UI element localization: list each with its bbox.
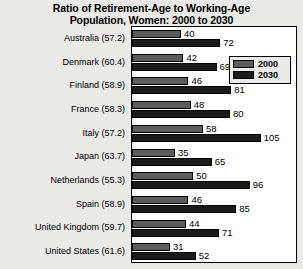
bar-2000 xyxy=(132,54,183,62)
chart-title-line-2: Population, Women: 2000 to 2030 xyxy=(0,14,303,26)
category-label: Finland (58.9) xyxy=(0,80,125,90)
bar-value-label-2030: 105 xyxy=(264,133,280,142)
bar-2030 xyxy=(132,134,261,142)
bar-value-label-2030: 81 xyxy=(234,85,245,94)
bar-2030 xyxy=(132,229,219,237)
bar-value-label-2030: 72 xyxy=(223,38,234,47)
bar-2000 xyxy=(132,243,170,251)
bar-value-label-2030: 52 xyxy=(199,251,210,260)
bar-2000 xyxy=(132,77,188,85)
bar-value-label-2000: 50 xyxy=(196,171,207,180)
bar-value-label-2000: 42 xyxy=(186,53,197,62)
legend-swatch-2000 xyxy=(233,60,254,68)
bar-2030 xyxy=(132,181,250,189)
category-label: Denmark (60.4) xyxy=(0,57,125,67)
bar-2000 xyxy=(132,101,191,109)
category-label: Spain (58.9) xyxy=(0,199,125,209)
bar-value-label-2000: 40 xyxy=(184,29,195,38)
category-label: Netherlands (55.3) xyxy=(0,175,125,185)
legend-label-2030: 2030 xyxy=(258,71,278,80)
bar-2000 xyxy=(132,149,175,157)
bar-value-label-2030: 85 xyxy=(239,204,250,213)
category-label: France (58.3) xyxy=(0,104,125,114)
legend-item-2030: 2030 xyxy=(233,70,287,80)
bar-value-label-2000: 48 xyxy=(194,100,205,109)
chart-title-line-1: Ratio of Retirement-Age to Working-Age xyxy=(0,2,303,14)
bar-value-label-2000: 44 xyxy=(189,219,200,228)
category-label: United States (61.6) xyxy=(0,246,125,256)
bar-2000 xyxy=(132,220,186,228)
bar-value-label-2030: 71 xyxy=(222,228,233,237)
bar-2000 xyxy=(132,30,181,38)
bar-2030 xyxy=(132,63,217,71)
category-label: United Kingdom (59.7) xyxy=(0,222,125,232)
legend-item-2000: 2000 xyxy=(233,59,287,69)
bar-value-label-2030: 80 xyxy=(233,109,244,118)
bar-value-label-2030: 96 xyxy=(253,180,264,189)
category-label: Australia (57.2) xyxy=(0,33,125,43)
bar-2030 xyxy=(132,86,231,94)
bar-2030 xyxy=(132,110,230,118)
bar-value-label-2000: 58 xyxy=(206,124,217,133)
bar-2000 xyxy=(132,196,188,204)
chart-title: Ratio of Retirement-Age to Working-Age P… xyxy=(0,2,303,26)
bar-2000 xyxy=(132,125,203,133)
chart-legend: 2000 2030 xyxy=(229,56,291,84)
chart-container: Ratio of Retirement-Age to Working-Age P… xyxy=(0,0,303,269)
bar-2030 xyxy=(132,205,236,213)
bar-value-label-2000: 46 xyxy=(191,195,202,204)
bar-2030 xyxy=(132,158,212,166)
legend-label-2000: 2000 xyxy=(258,60,278,69)
bar-value-label-2000: 31 xyxy=(173,242,184,251)
bar-value-label-2000: 46 xyxy=(191,76,202,85)
bar-value-label-2030: 65 xyxy=(215,157,226,166)
legend-swatch-2030 xyxy=(233,71,254,79)
bar-value-label-2000: 35 xyxy=(178,148,189,157)
bar-2030 xyxy=(132,252,196,260)
bar-2000 xyxy=(132,172,193,180)
bar-2030 xyxy=(132,39,220,47)
category-label: Italy (57.2) xyxy=(0,128,125,138)
category-label: Japan (63.7) xyxy=(0,151,125,161)
category-axis: Australia (57.2)Denmark (60.4)Finland (5… xyxy=(0,26,128,263)
